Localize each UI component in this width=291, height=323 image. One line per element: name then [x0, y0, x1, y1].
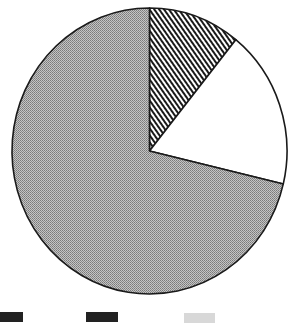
legend-swatch-1 [0, 312, 23, 322]
legend-swatch-2 [86, 312, 118, 322]
legend-swatch-3 [184, 313, 215, 323]
